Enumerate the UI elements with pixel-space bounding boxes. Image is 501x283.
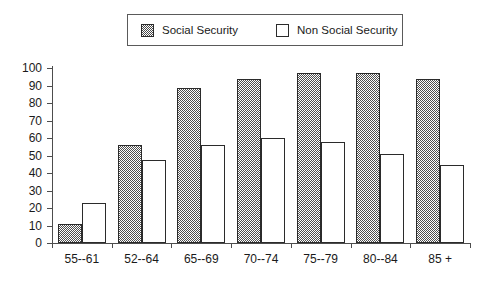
y-axis-tick-label: 80 — [0, 97, 42, 109]
x-axis-tick — [171, 243, 172, 248]
hollow-swatch-icon — [276, 24, 289, 37]
bar-social-security — [297, 73, 321, 243]
bar-social-security — [356, 73, 380, 243]
bar-social-security — [118, 145, 142, 243]
y-axis-tick-label: 20 — [0, 202, 42, 214]
legend-label-social-security: Social Security — [162, 24, 238, 37]
x-axis-tick — [231, 243, 232, 248]
x-axis-tick — [470, 243, 471, 248]
y-axis-tick-label: 0 — [0, 237, 42, 249]
chart-legend: Social Security Non Social Security — [127, 14, 403, 46]
y-axis-tick-label: 90 — [0, 80, 42, 92]
y-axis-tick-label: 60 — [0, 132, 42, 144]
bar-social-security — [237, 79, 261, 244]
bar-social-security — [58, 224, 82, 243]
legend-item-social-security: Social Security — [141, 24, 238, 37]
y-axis-tick — [47, 138, 52, 139]
x-axis-category-label: 85 + — [400, 252, 480, 266]
legend-item-non-social-security: Non Social Security — [276, 24, 397, 37]
y-axis-line — [52, 66, 53, 245]
x-axis-tick — [112, 243, 113, 248]
y-axis-tick — [47, 68, 52, 69]
y-axis-tick — [47, 173, 52, 174]
y-axis-tick — [47, 156, 52, 157]
bar-chart: Social Security Non Social Security 0102… — [0, 0, 501, 283]
bar-non-social-security — [82, 203, 106, 243]
bar-non-social-security — [321, 142, 345, 244]
y-axis-tick-label: 40 — [0, 167, 42, 179]
x-axis-tick — [291, 243, 292, 248]
x-axis-tick — [351, 243, 352, 248]
y-axis-tick-label: 70 — [0, 115, 42, 127]
bar-social-security — [177, 88, 201, 243]
bar-non-social-security — [261, 138, 285, 243]
bar-non-social-security — [142, 160, 166, 243]
y-axis-tick-label: 100 — [0, 62, 42, 74]
y-axis-tick — [47, 226, 52, 227]
hatched-swatch-icon — [141, 24, 154, 37]
bar-non-social-security — [440, 165, 464, 243]
bar-non-social-security — [201, 145, 225, 243]
x-axis-tick — [52, 243, 53, 248]
y-axis-tick — [47, 191, 52, 192]
bar-social-security — [416, 79, 440, 243]
x-axis-tick — [410, 243, 411, 248]
legend-label-non-social-security: Non Social Security — [297, 24, 397, 37]
y-axis-tick — [47, 208, 52, 209]
x-axis-line — [52, 243, 471, 244]
y-axis-tick — [47, 103, 52, 104]
y-axis-tick — [47, 121, 52, 122]
y-axis-tick-label: 30 — [0, 185, 42, 197]
y-axis-tick-label: 10 — [0, 220, 42, 232]
bar-non-social-security — [380, 154, 404, 243]
y-axis-tick — [47, 86, 52, 87]
y-axis-tick-label: 50 — [0, 150, 42, 162]
